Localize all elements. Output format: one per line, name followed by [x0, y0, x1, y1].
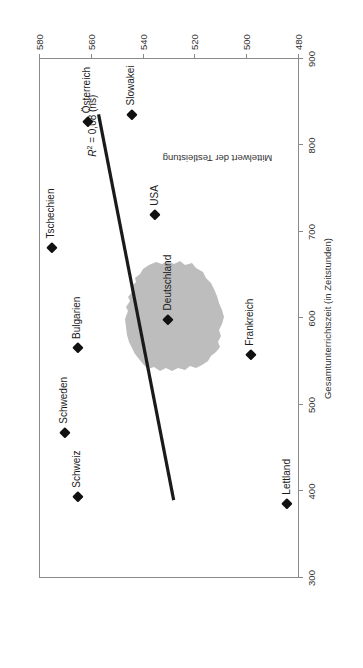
x-axis-line [298, 59, 299, 578]
x-tick [298, 145, 303, 146]
data-point-label: Lettland [280, 459, 291, 495]
y-tick [142, 54, 143, 59]
data-point-label: Deutschland [161, 255, 172, 311]
data-point-label: Bulgarien [70, 297, 81, 339]
r2-symbol: R [86, 150, 97, 157]
y-axis-line [39, 58, 298, 59]
y-tick [39, 54, 40, 59]
y-tick [90, 54, 91, 59]
r2-exponent: 2 [85, 146, 92, 150]
x-tick [298, 577, 303, 578]
x-tick [298, 404, 303, 405]
x-tick-label: 900 [306, 51, 317, 67]
y-tick-label: 580 [33, 34, 44, 50]
x-tick [298, 231, 303, 232]
y-tick [194, 54, 195, 59]
x-tick-label: 700 [306, 224, 317, 240]
y-tick-label: 480 [292, 34, 303, 50]
data-point-label: Schweiz [70, 450, 81, 487]
data-point-label: Österreich [81, 67, 92, 113]
y-tick-label: 500 [240, 34, 251, 50]
x-axis-title: Gesamtunterrichtszeit (in Zeitstunden) [322, 59, 333, 578]
figure-canvas: Abbildung ... Zusammenhang ... 300400500… [0, 0, 363, 668]
chart-stage: 300400500600700800900 480500520540560580… [17, 34, 347, 634]
x-tick [298, 318, 303, 319]
x-tick [298, 491, 303, 492]
y-tick [246, 54, 247, 59]
x-tick-label: 400 [306, 484, 317, 500]
data-point-label: USA [148, 185, 159, 206]
x-tick-label: 500 [306, 397, 317, 413]
y-tick-label: 560 [85, 34, 96, 50]
y-tick [298, 54, 299, 59]
y-tick-label: 540 [137, 34, 148, 50]
x-tick-label: 800 [306, 138, 317, 154]
y-tick-label: 520 [188, 34, 199, 50]
y-axis-title: Mittelwert der Testleistung [88, 153, 347, 164]
x-tick-label: 300 [306, 570, 317, 586]
data-point-label: Tschechien [44, 189, 55, 239]
data-point-label: Slowakei [125, 65, 136, 105]
data-point-label: Schweden [57, 377, 68, 424]
data-point-label: Frankreich [244, 299, 255, 346]
x-tick-label: 600 [306, 311, 317, 327]
